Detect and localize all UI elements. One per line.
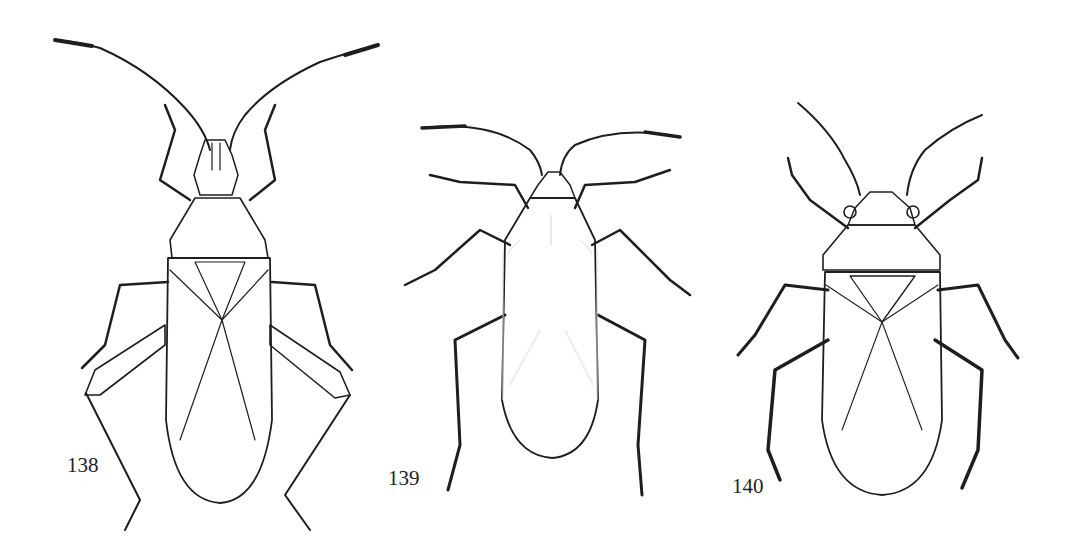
insect-140-drawing: [720, 0, 1073, 557]
figure-138: 138: [0, 0, 400, 557]
insect-138-drawing: [0, 0, 400, 557]
figure-139: 139: [380, 0, 720, 557]
figure-label-138: 138: [67, 455, 99, 476]
figure-label-140: 140: [732, 476, 764, 497]
figure-140: 140: [720, 0, 1073, 557]
insect-139-drawing: [380, 0, 720, 557]
illustration-plate: 138: [0, 0, 1073, 557]
figure-label-139: 139: [388, 468, 420, 489]
